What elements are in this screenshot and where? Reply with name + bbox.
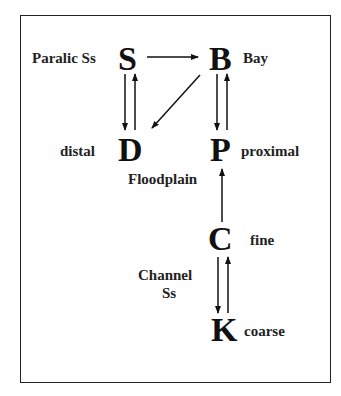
arrow-b-to-d xyxy=(152,75,200,128)
label-proximal: proximal xyxy=(241,143,299,159)
node-c: C xyxy=(208,222,233,256)
label-distal: distal xyxy=(60,143,95,159)
node-k: K xyxy=(211,313,237,347)
node-p: P xyxy=(210,133,231,167)
label-channel-ss: Ss xyxy=(162,285,176,301)
label-channel: Channel xyxy=(138,267,192,283)
label-floodplain: Floodplain xyxy=(128,171,197,187)
label-paralic-ss: Paralic Ss xyxy=(32,50,96,66)
node-d: D xyxy=(118,133,143,167)
node-b: B xyxy=(209,42,232,76)
node-s: S xyxy=(118,42,137,76)
label-fine: fine xyxy=(250,232,274,248)
label-coarse: coarse xyxy=(244,323,285,339)
label-bay: Bay xyxy=(243,50,268,66)
